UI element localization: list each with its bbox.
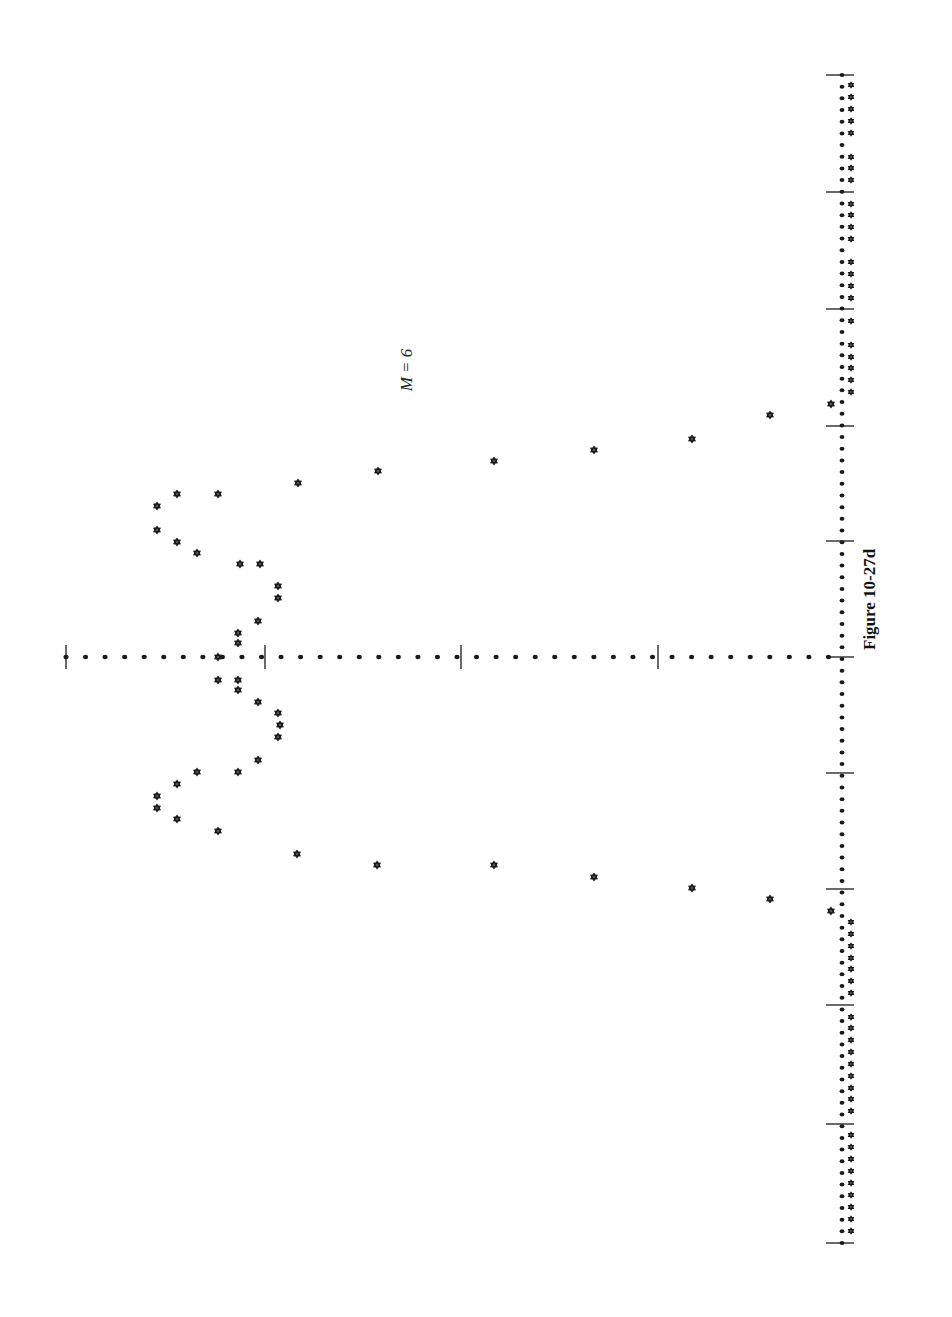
axis-dot [142,655,147,659]
star-marker [173,537,181,546]
star-marker [848,317,855,325]
star-marker [214,652,222,661]
star-marker [848,294,855,302]
axis-dot [840,1113,845,1117]
star-marker [848,282,855,290]
axis-dot [840,529,845,533]
axis-dot [840,540,845,544]
axis-dot [840,879,845,883]
star-marker [848,93,855,101]
axis-dot [840,645,845,649]
star-marker [234,628,242,637]
axis-dot [840,96,845,100]
star-marker [848,1036,855,1044]
axis-dot [840,85,845,89]
star-marker [848,153,855,161]
axis-dot [840,856,845,860]
axis-dot [840,692,845,696]
star-marker [848,1095,855,1103]
axis-dot [840,949,845,953]
axis-dot [840,844,845,848]
star-marker [274,732,282,741]
axis-dot [840,178,845,182]
axis-dot [840,131,845,135]
star-marker [848,989,855,997]
axis-dot [840,1007,845,1011]
star-marker [848,965,855,973]
axis-dot [787,655,792,659]
axis-dot [840,353,845,357]
star-marker [234,685,242,694]
axis-dot [611,655,616,659]
axis-dot [840,937,845,941]
axis-dot [181,655,186,659]
axis-dot [840,599,845,603]
axis-dot [669,655,674,659]
axis-dot [840,1031,845,1035]
rotated-scatter-plot [0,0,952,1317]
star-marker [848,1179,855,1187]
star-marker [848,1191,855,1199]
star-marker [848,117,855,125]
axis-dot [840,1077,845,1081]
figure-caption: Figure 10-27d [860,549,880,650]
axis-dot [840,423,845,427]
star-marker [274,593,282,602]
axis-dot [840,517,845,521]
axis-dot [122,655,127,659]
axis-dot [840,470,845,474]
star-marker [236,559,244,568]
axis-dot [840,972,845,976]
axis-dot [840,1241,845,1245]
axis-dot [840,634,845,638]
axis-dot [840,283,845,287]
star-marker [590,445,598,454]
axis-dot [840,1206,845,1210]
axis-dot [572,655,577,659]
axis-dot [840,201,845,205]
axis-dot [840,318,845,322]
star-marker [256,559,264,568]
axis-dot [840,704,845,708]
axis-dot [840,809,845,813]
star-marker [848,200,855,208]
star-marker [848,1155,855,1163]
axis-dot [840,657,845,661]
axis-dot [630,655,635,659]
star-marker [153,791,161,800]
star-marker [254,755,262,764]
star-marker [848,930,855,938]
axis-dot [454,655,459,659]
star-marker [848,1060,855,1068]
axis-dot [840,120,845,124]
star-marker [490,860,498,869]
axis-dot [840,225,845,229]
axis-dot [435,655,440,659]
axis-dot [103,655,108,659]
axis-dot [337,655,342,659]
axis-dot [840,1194,845,1198]
star-marker [848,1048,855,1056]
axis-dot [748,655,753,659]
axis-dot [840,1019,845,1023]
star-marker [848,129,855,137]
axis-dot [840,412,845,416]
axis-dot [513,655,518,659]
axis-dot [840,400,845,404]
star-marker [276,720,284,729]
star-marker [848,1167,855,1175]
star-marker [688,434,696,443]
star-marker [153,501,161,510]
axis-dot [376,655,381,659]
axis-dot [840,505,845,509]
axis-dot [840,166,845,170]
annotation-m-label: M = 6 [397,349,417,392]
axis-dot [840,564,845,568]
star-marker [848,235,855,243]
axis-dot [840,388,845,392]
axis-dot [840,926,845,930]
star-marker [234,675,242,684]
axis-dot [826,655,831,659]
axis-dot [840,1136,845,1140]
star-marker [848,211,855,219]
